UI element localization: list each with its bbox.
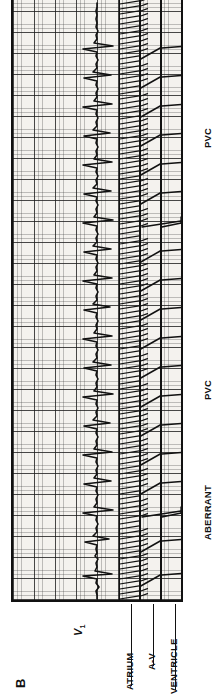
ecg-strip — [13, 0, 181, 600]
ladder-label-atrium: ATRIUM — [125, 653, 135, 690]
leader-line-atrium — [131, 604, 132, 686]
ladder-label-ventricle: VENTRICLE — [169, 638, 179, 694]
leader-line-av — [153, 604, 154, 666]
ecg-strip-rotated — [13, 0, 181, 600]
annotation-aberrant: ABERRANT — [203, 485, 213, 540]
ladder-diagram — [119, 0, 182, 600]
ecg-figure: V1 B ATRIUM A-V VENTRICLE PVC PVC ABERRA… — [0, 0, 214, 698]
lead-label: V1 — [73, 624, 86, 636]
annotation-pvc-top: PVC — [203, 128, 213, 148]
leader-line-ventricle — [175, 604, 176, 690]
ladder-strokes — [119, 0, 182, 600]
annotation-pvc-mid: PVC — [203, 380, 213, 400]
panel-letter: B — [14, 678, 27, 688]
ladder-label-av: A-V — [147, 653, 157, 670]
